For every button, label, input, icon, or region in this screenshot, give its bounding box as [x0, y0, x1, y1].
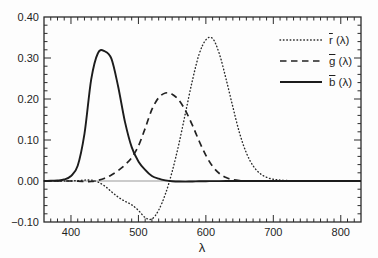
y-tick-label: −0.10	[11, 216, 39, 228]
x-tick-label: 800	[332, 226, 350, 238]
x-tick-label: 500	[129, 226, 147, 238]
legend-item-bbar: b (λ)	[279, 75, 352, 89]
cie-rgb-color-matching-figure: 400500600700800−0.100.000.100.200.300.40…	[0, 0, 378, 258]
y-tick-label: 0.10	[18, 134, 39, 146]
y-tick-label: 0.40	[18, 11, 39, 23]
legend-item-rbar: r (λ)	[279, 33, 352, 47]
x-tick-label: 600	[197, 226, 215, 238]
legend-suffix: (λ)	[335, 76, 352, 88]
y-tick-label: 0.30	[18, 52, 39, 64]
legend-label-rbar: r (λ)	[329, 33, 349, 47]
y-tick-label: 0.20	[18, 93, 39, 105]
chart-legend: r (λ)g (λ)b (λ)	[279, 33, 352, 89]
x-tick-label: 700	[264, 226, 282, 238]
y-tick-label: 0.00	[18, 175, 39, 187]
x-tick-label: 400	[62, 226, 80, 238]
x-axis-label: λ	[199, 240, 206, 255]
legend-suffix: (λ)	[335, 55, 352, 67]
legend-label-bbar: b (λ)	[329, 75, 352, 89]
legend-item-gbar: g (λ)	[279, 54, 352, 68]
series-gbar-curve	[44, 93, 361, 182]
legend-sample-bbar	[279, 78, 323, 86]
legend-label-gbar: g (λ)	[329, 54, 352, 68]
legend-suffix: (λ)	[333, 34, 350, 46]
legend-sample-rbar	[279, 36, 323, 44]
legend-sample-gbar	[279, 57, 323, 65]
